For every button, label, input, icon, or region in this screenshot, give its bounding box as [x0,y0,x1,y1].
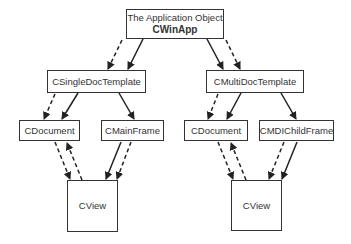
mdichild-label: CMDIChildFrame [260,125,333,137]
view-right-label: CView [243,200,270,212]
view-left-label: CView [79,200,106,212]
edge-viewr-docr-dashed [231,143,246,180]
edge-viewl-docl-dashed [67,143,82,180]
edge-mdt-mdichild-solid [281,93,296,119]
edge-mdichild-viewr-solid [282,142,297,179]
edge-sdt-doc-dashed [44,94,55,119]
node-cdocument-left: CDocument [19,120,80,141]
node-application-object: The Application Object CWinApp [126,9,224,39]
edge-app-mdt-dashed [226,40,240,69]
node-cmdichildframe: CMDIChildFrame [259,120,334,141]
mdt-label: CMultiDocTemplate [214,76,296,88]
edge-app-sdt-solid [128,39,143,69]
node-csingledoctemplate: CSingleDocTemplate [47,70,146,93]
edge-sdt-doc-solid [62,93,78,119]
edge-sdt-mainframe-solid [119,93,134,119]
node-cview-left: CView [67,180,118,232]
edge-app-mdt-solid [207,39,223,69]
node-cview-right: CView [231,180,282,231]
edge-mdichild-viewr-dashed [269,142,284,179]
node-cmultidoctemplate: CMultiDocTemplate [206,70,304,93]
app-class: CWinApp [153,24,198,37]
edge-docl-viewl-dashed [55,142,70,179]
sdt-label: CSingleDocTemplate [52,76,141,88]
edge-app-sdt-dashed [108,40,122,69]
edge-mdt-doc-solid [227,93,241,119]
edge-mdt-doc-dashed [208,94,218,119]
edge-mainframe-viewl-solid [106,142,121,179]
node-cdocument-right: CDocument [184,120,248,141]
app-title: The Application Object [127,12,222,24]
node-cmainframe: CMainFrame [101,120,164,141]
doc-right-label: CDocument [191,125,241,137]
edge-docr-viewr-dashed [218,142,233,179]
mainframe-label: CMainFrame [105,125,160,137]
doc-left-label: CDocument [24,125,74,137]
